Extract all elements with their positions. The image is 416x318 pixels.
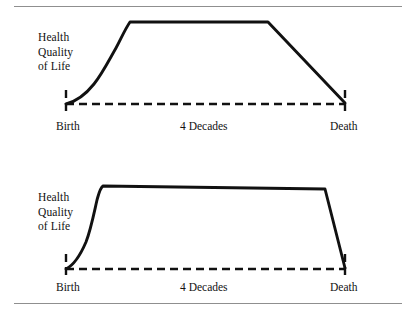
- figure-top-x-tick-death: Death: [330, 120, 357, 133]
- figure-top-x-tick-decades: 4 Decades: [180, 120, 228, 133]
- figure-top: Health Quality of Life Birth 4 Decades D…: [0, 8, 416, 148]
- figure-top-y-axis-label-line-3: of Life: [38, 59, 73, 74]
- figure-bottom-y-axis-label-line-1: Health: [38, 190, 73, 205]
- bottom-divider-rule: [14, 303, 402, 304]
- figure-bottom-x-tick-decades: 4 Decades: [180, 281, 228, 294]
- figure-page: Health Quality of Life Birth 4 Decades D…: [0, 0, 416, 318]
- figure-bottom-x-tick-birth: Birth: [56, 281, 80, 294]
- figure-bottom-y-axis-label-line-2: Quality: [38, 205, 73, 220]
- figure-bottom: Health Quality of Life Birth 4 Decades D…: [0, 168, 416, 302]
- figure-top-y-axis-label-line-1: Health: [38, 30, 73, 45]
- figure-top-curve: [66, 22, 345, 104]
- figure-bottom-y-axis-label-line-3: of Life: [38, 219, 73, 234]
- figure-bottom-curve: [66, 186, 345, 269]
- top-divider-rule: [14, 6, 402, 7]
- figure-top-y-axis-label: Health Quality of Life: [38, 30, 73, 74]
- figure-bottom-y-axis-label: Health Quality of Life: [38, 190, 73, 234]
- figure-top-y-axis-label-line-2: Quality: [38, 45, 73, 60]
- figure-top-x-tick-birth: Birth: [56, 120, 80, 133]
- figure-bottom-x-tick-death: Death: [330, 281, 357, 294]
